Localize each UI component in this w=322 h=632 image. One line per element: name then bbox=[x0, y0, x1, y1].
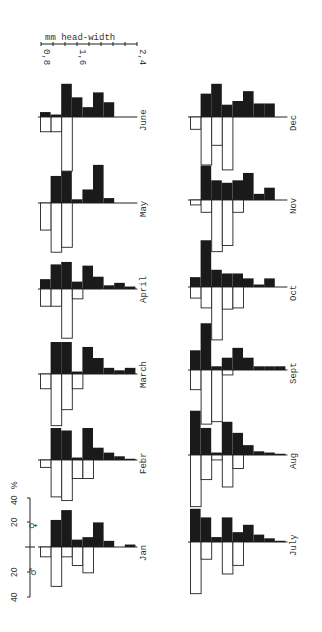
female-bar bbox=[232, 101, 243, 117]
female-bar bbox=[275, 454, 286, 455]
female-bar bbox=[222, 358, 233, 370]
male-bar bbox=[191, 200, 202, 205]
female-bar bbox=[264, 453, 275, 455]
male-bar bbox=[62, 460, 73, 501]
pct-tick-40-top: 40 bbox=[9, 495, 19, 505]
female-bar bbox=[201, 240, 212, 287]
male-bar bbox=[222, 455, 233, 487]
male-bar bbox=[83, 547, 94, 573]
female-bar bbox=[72, 282, 83, 289]
male-bar bbox=[191, 455, 202, 507]
male-bar bbox=[212, 200, 223, 252]
female-bar bbox=[232, 180, 243, 200]
month-label: Dec bbox=[289, 115, 299, 131]
female-bar bbox=[211, 84, 222, 117]
female-bar bbox=[243, 358, 254, 370]
male-bar bbox=[233, 542, 244, 565]
female-bar bbox=[190, 277, 201, 287]
size-tick-min: 0,8 bbox=[41, 49, 51, 65]
female-bar bbox=[201, 517, 212, 542]
size-tick-mid: 1,6 bbox=[77, 49, 87, 65]
male-bar bbox=[212, 455, 223, 460]
male-bar bbox=[51, 374, 62, 426]
female-bar bbox=[82, 266, 93, 289]
female-bar bbox=[201, 94, 212, 117]
female-bar bbox=[254, 451, 265, 455]
female-bar bbox=[51, 520, 62, 547]
male-bar bbox=[83, 460, 94, 478]
female-bar bbox=[82, 428, 93, 460]
female-bar bbox=[264, 366, 275, 370]
female-bar bbox=[243, 525, 254, 542]
panel-may: May bbox=[38, 165, 149, 252]
male-bar bbox=[51, 460, 62, 497]
female-bar bbox=[243, 91, 254, 117]
female-bar bbox=[254, 366, 265, 370]
female-bar bbox=[61, 510, 72, 547]
month-label: June bbox=[139, 109, 149, 131]
panel-nov: Nov bbox=[188, 166, 299, 252]
month-label: Febr bbox=[139, 452, 149, 474]
month-label: Aug bbox=[289, 453, 299, 469]
female-bar bbox=[82, 537, 93, 547]
female-bar bbox=[190, 350, 201, 370]
male-bar bbox=[72, 289, 83, 299]
female-bar bbox=[222, 105, 233, 117]
male-symbol: ♂ bbox=[28, 568, 38, 576]
female-bar bbox=[211, 366, 222, 370]
female-bar bbox=[232, 348, 243, 370]
pct-tick-20-bottom: 20 bbox=[9, 567, 19, 577]
panel-april: April bbox=[38, 262, 149, 338]
panel-june: June bbox=[38, 84, 149, 171]
male-bar bbox=[191, 542, 202, 594]
female-bar bbox=[275, 541, 286, 542]
female-bar bbox=[190, 509, 201, 542]
female-bar bbox=[61, 430, 72, 460]
male-bar bbox=[222, 117, 233, 170]
female-bar bbox=[51, 264, 62, 289]
male-bar bbox=[62, 547, 73, 557]
male-bar bbox=[191, 287, 202, 298]
female-bar bbox=[232, 273, 243, 287]
male-bar bbox=[222, 287, 233, 309]
month-panels: JanFebrMarchAprilMayJuneJulyAugSeptOctNo… bbox=[38, 84, 299, 594]
panel-march: March bbox=[38, 342, 149, 426]
male-bar bbox=[51, 117, 62, 132]
female-bar bbox=[40, 112, 51, 117]
female-bar bbox=[201, 323, 212, 370]
female-bar bbox=[232, 532, 243, 542]
male-bar bbox=[72, 547, 83, 565]
male-bar bbox=[201, 542, 212, 559]
male-bar bbox=[212, 370, 223, 422]
male-bar bbox=[233, 200, 244, 212]
female-bar bbox=[114, 283, 125, 289]
female-bar bbox=[243, 445, 254, 455]
month-label: Jan bbox=[139, 545, 149, 561]
month-label: May bbox=[139, 200, 149, 217]
male-bar bbox=[41, 374, 52, 389]
female-bar bbox=[211, 270, 222, 287]
female-bar bbox=[93, 448, 104, 460]
female-bar bbox=[61, 84, 72, 117]
male-bar bbox=[212, 287, 223, 340]
female-bar bbox=[93, 522, 104, 547]
female-bar bbox=[93, 277, 104, 289]
male-bar bbox=[72, 460, 83, 478]
male-bar bbox=[62, 203, 73, 247]
female-bar bbox=[104, 368, 115, 374]
size-axis-title: mm head-width bbox=[45, 33, 115, 43]
female-bar bbox=[211, 180, 222, 200]
male-bar bbox=[222, 542, 233, 574]
female-bar bbox=[201, 166, 212, 200]
male-bar bbox=[201, 370, 212, 424]
female-bar bbox=[104, 285, 115, 289]
male-bar bbox=[51, 203, 62, 252]
panel-aug: Aug bbox=[188, 411, 299, 507]
panel-febr: Febr bbox=[38, 428, 149, 501]
month-label: Oct bbox=[289, 285, 299, 301]
female-bar bbox=[104, 102, 115, 117]
female-bar bbox=[222, 273, 233, 287]
male-bar bbox=[201, 455, 212, 480]
month-label: April bbox=[139, 276, 149, 303]
female-bar bbox=[114, 370, 125, 374]
